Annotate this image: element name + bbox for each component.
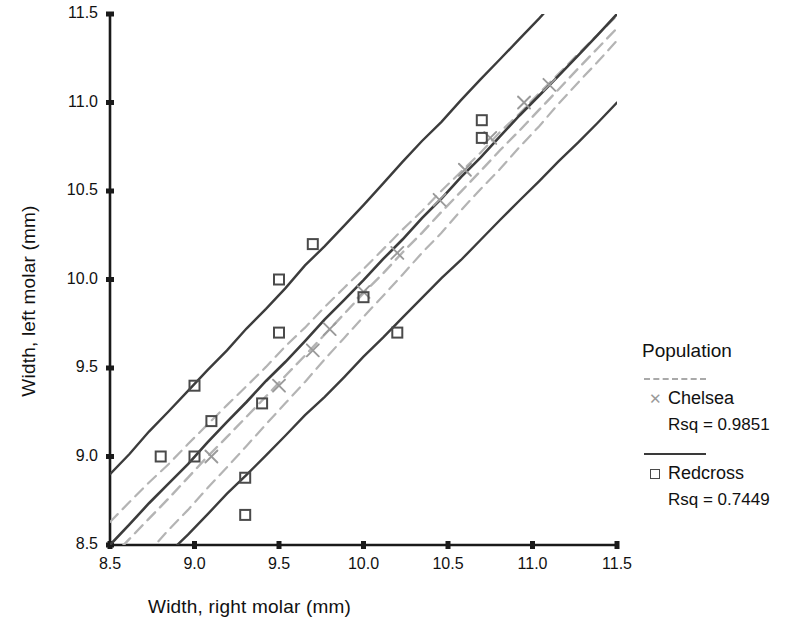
confidence-bands: [110, 0, 617, 612]
legend-line-redcross: [642, 449, 792, 458]
legend-rsq-redcross: Rsq = 0.7449: [668, 490, 792, 510]
data-point-square: [308, 239, 318, 249]
x-tick-label: 11.0: [505, 555, 561, 573]
square-marker-icon: [642, 466, 668, 481]
data-point-square: [240, 510, 250, 520]
data-point-square: [392, 328, 402, 338]
data-point-square: [477, 115, 487, 125]
x-tick-label: 10.0: [336, 555, 392, 573]
confidence-band-redcross-upper: [110, 0, 617, 474]
fit-line-redcross: [110, 14, 617, 545]
legend-label-redcross: Redcross: [668, 463, 744, 484]
data-point-cross: [543, 79, 555, 91]
data-point-cross: [324, 323, 336, 335]
x-tick-label: 9.5: [251, 555, 307, 573]
data-point-square: [156, 452, 166, 462]
data-point-square: [274, 328, 284, 338]
data-point-cross: [434, 194, 446, 206]
x-marker-icon: ✕: [642, 391, 668, 406]
y-tick-label: 11.0: [42, 93, 98, 111]
y-tick-label: 11.5: [42, 4, 98, 22]
data-point-square: [477, 133, 487, 143]
x-tick-label: 9.0: [167, 555, 223, 573]
legend-label-chelsea: Chelsea: [668, 388, 734, 409]
legend: Population ✕ Chelsea Rsq = 0.9851 Redcro…: [642, 340, 792, 516]
legend-rsq-chelsea: Rsq = 0.9851: [668, 415, 792, 435]
legend-title: Population: [642, 340, 792, 362]
legend-entry-chelsea: ✕ Chelsea Rsq = 0.9851: [642, 374, 792, 435]
fit-line-chelsea: [110, 28, 617, 559]
y-axis-title: Width, left molar (mm): [18, 176, 40, 426]
y-tick-label: 9.0: [42, 447, 98, 465]
x-tick-label: 10.5: [420, 555, 476, 573]
legend-line-chelsea: [642, 374, 792, 383]
confidence-band-chelsea-lower: [110, 41, 617, 595]
legend-entry-redcross: Redcross Rsq = 0.7449: [642, 449, 792, 510]
confidence-band-redcross-lower: [110, 103, 617, 613]
y-tick-label: 8.5: [42, 535, 98, 553]
x-axis-title: Width, right molar (mm): [148, 596, 351, 618]
dashed-gray-line-icon: [644, 378, 706, 380]
data-point-markers: [156, 79, 556, 520]
y-tick-label: 9.5: [42, 358, 98, 376]
x-tick-label: 8.5: [82, 555, 138, 573]
plot-canvas: [0, 0, 793, 636]
solid-black-line-icon: [644, 453, 706, 455]
y-tick-label: 10.5: [42, 181, 98, 199]
regression-fit-lines: [110, 14, 617, 559]
data-point-square: [274, 275, 284, 285]
x-tick-label: 11.5: [589, 555, 645, 573]
data-point-cross: [518, 97, 530, 109]
scatter-plot-figure: 8.59.09.510.010.511.011.5 8.59.09.510.01…: [0, 0, 793, 636]
confidence-band-chelsea-upper: [110, 16, 617, 522]
y-tick-label: 10.0: [42, 270, 98, 288]
